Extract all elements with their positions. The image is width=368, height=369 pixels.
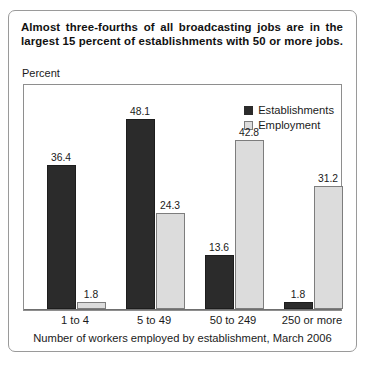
bar-value-label: 31.2 — [318, 173, 338, 184]
bar-rect[interactable] — [205, 255, 234, 309]
chart-title: Almost three-fourths of all broadcasting… — [21, 20, 343, 63]
x-axis-label: 50 to 249 — [210, 314, 257, 326]
x-axis-label: 250 or more — [282, 314, 342, 326]
bar-value-label: 36.4 — [51, 152, 71, 163]
bar-rect[interactable] — [77, 302, 106, 309]
bar-establishments[interactable]: 1.8 — [284, 104, 313, 309]
x-axis-tick-labels: 1 to 45 to 4950 to 249250 or more — [23, 314, 342, 330]
bar-rect[interactable] — [156, 213, 185, 309]
bar-rect[interactable] — [47, 165, 76, 309]
bar-group: 13.642.8 — [204, 104, 264, 309]
bar-employment[interactable]: 1.8 — [77, 104, 106, 309]
y-axis-unit-label: Percent — [22, 67, 60, 79]
bar-value-label: 13.6 — [209, 242, 229, 253]
bar-establishments[interactable]: 13.6 — [205, 104, 234, 309]
bar-establishments[interactable]: 48.1 — [126, 104, 155, 309]
x-axis-label: 1 to 4 — [61, 314, 89, 326]
bar-rect[interactable] — [126, 119, 155, 309]
x-axis-title: Number of workers employed by establishm… — [9, 332, 356, 344]
bar-value-label: 1.8 — [291, 289, 305, 300]
bar-rect[interactable] — [314, 186, 343, 309]
x-axis-baseline — [24, 309, 341, 310]
bar-group: 1.831.2 — [283, 104, 343, 309]
bar-employment[interactable]: 31.2 — [314, 104, 343, 309]
bar-establishments[interactable]: 36.4 — [47, 104, 76, 309]
bar-value-label: 24.3 — [160, 200, 180, 211]
bar-group: 48.124.3 — [125, 104, 185, 309]
x-axis-label: 5 to 49 — [137, 314, 171, 326]
bars-container: 36.41.848.124.313.642.81.831.2 — [24, 85, 341, 310]
chart-card: Almost three-fourths of all broadcasting… — [8, 10, 357, 352]
bar-rect[interactable] — [235, 140, 264, 309]
bar-value-label: 1.8 — [84, 289, 98, 300]
bar-employment[interactable]: 24.3 — [156, 104, 185, 309]
bar-value-label: 42.8 — [239, 127, 259, 138]
bar-group: 36.41.8 — [46, 104, 106, 309]
bar-rect[interactable] — [284, 302, 313, 309]
bar-employment[interactable]: 42.8 — [235, 104, 264, 309]
bar-value-label: 48.1 — [130, 106, 150, 117]
plot-area: Establishments Employment 36.41.848.124.… — [23, 84, 342, 311]
